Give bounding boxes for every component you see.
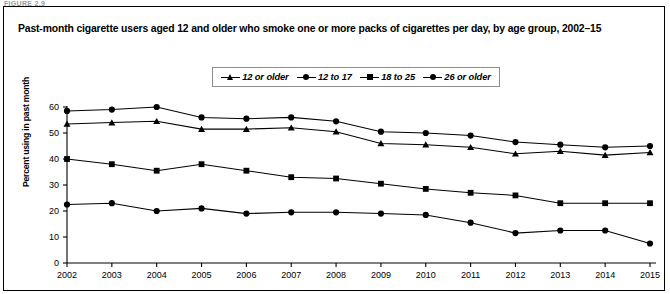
data-point (423, 186, 429, 192)
data-point (288, 174, 294, 180)
data-point (109, 161, 115, 167)
svg-text:40: 40 (49, 154, 59, 164)
data-point (154, 208, 160, 214)
svg-text:30: 30 (49, 180, 59, 190)
data-point (423, 212, 429, 218)
svg-text:20: 20 (49, 206, 59, 216)
data-point (557, 227, 563, 233)
data-point (602, 227, 608, 233)
data-point (468, 133, 474, 139)
line-chart-svg: 0102030405060200220032004200520062007200… (4, 7, 666, 292)
y-axis-label: Percent using in past month (21, 72, 31, 192)
data-point (647, 143, 653, 149)
svg-text:2002: 2002 (57, 270, 77, 280)
series-line-18-to-25 (67, 159, 650, 203)
svg-text:2010: 2010 (416, 270, 436, 280)
data-point (243, 168, 249, 174)
data-point (602, 144, 608, 150)
data-point (333, 118, 339, 124)
svg-text:2005: 2005 (192, 270, 212, 280)
data-point (64, 108, 70, 114)
svg-text:2015: 2015 (640, 270, 660, 280)
data-point (288, 114, 294, 120)
data-point (198, 205, 204, 211)
data-point (647, 240, 653, 246)
data-point (423, 130, 429, 136)
svg-text:2007: 2007 (281, 270, 301, 280)
data-point (557, 200, 563, 206)
data-point (109, 200, 115, 206)
data-point (154, 104, 160, 110)
svg-text:2004: 2004 (147, 270, 167, 280)
data-point (602, 200, 608, 206)
data-point (109, 107, 115, 113)
data-point (378, 211, 384, 217)
svg-text:10: 10 (49, 232, 59, 242)
data-point (243, 116, 249, 122)
data-point (513, 193, 519, 199)
svg-text:60: 60 (49, 102, 59, 112)
data-point (512, 230, 518, 236)
svg-text:2006: 2006 (236, 270, 256, 280)
data-point (468, 220, 474, 226)
svg-text:2013: 2013 (550, 270, 570, 280)
svg-text:2012: 2012 (505, 270, 525, 280)
data-point (647, 200, 653, 206)
data-point (243, 211, 249, 217)
figure-container: Past-month cigarette users aged 12 and o… (3, 6, 665, 291)
data-point (64, 156, 70, 162)
svg-text:2003: 2003 (102, 270, 122, 280)
svg-text:0: 0 (54, 258, 59, 268)
svg-text:2014: 2014 (595, 270, 615, 280)
svg-text:2009: 2009 (371, 270, 391, 280)
data-point (198, 114, 204, 120)
series-line-26-or-older (67, 107, 650, 147)
data-point (333, 176, 339, 182)
data-point (468, 190, 474, 196)
data-point (557, 142, 563, 148)
data-point (199, 161, 205, 167)
svg-text:2008: 2008 (326, 270, 346, 280)
data-point (64, 201, 70, 207)
data-point (333, 209, 339, 215)
data-point (154, 168, 160, 174)
data-point (288, 209, 294, 215)
svg-text:2011: 2011 (461, 270, 480, 280)
data-point (378, 129, 384, 135)
data-point (512, 139, 518, 145)
plot-area: Percent using in past month 010203040506… (4, 7, 666, 292)
data-point (378, 181, 384, 187)
svg-text:50: 50 (49, 128, 59, 138)
